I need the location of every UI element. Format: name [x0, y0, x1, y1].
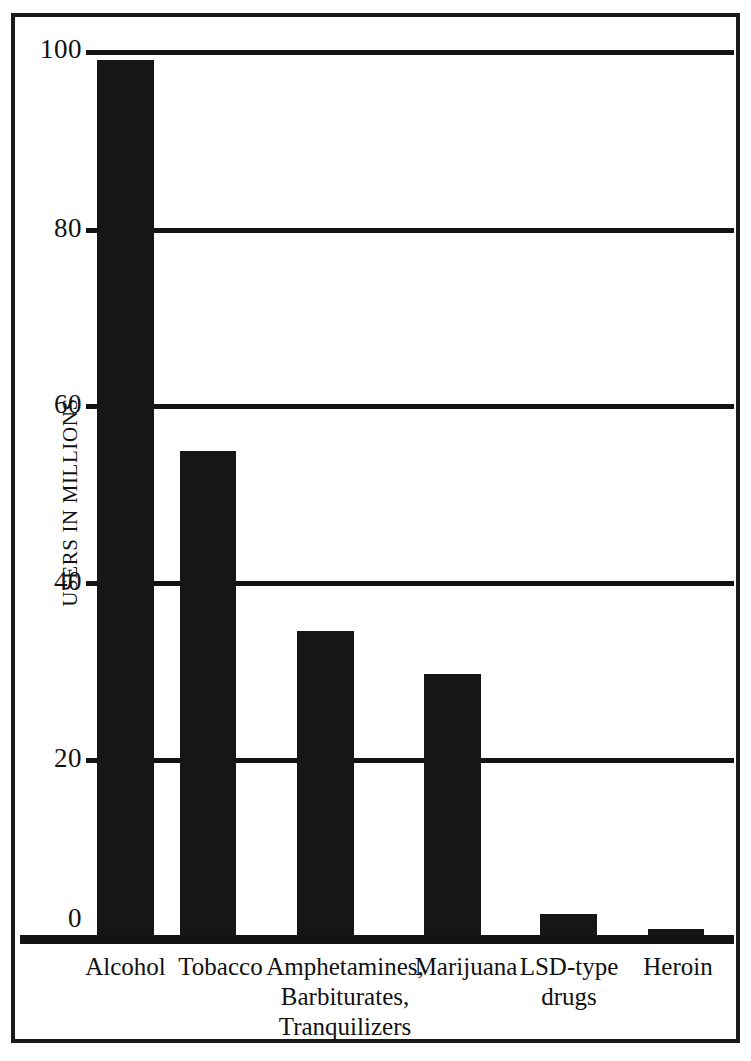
bar-marijuana	[424, 674, 481, 935]
xlabel-heroin-line-1: Heroin	[628, 952, 728, 982]
tick-100	[86, 50, 100, 55]
xlabel-lsd-line-2: drugs	[509, 982, 629, 1012]
xlabel-lsd-type-drugs: LSD-type drugs	[509, 952, 629, 1012]
xlabel-lsd-line-1: LSD-type	[509, 952, 629, 982]
ytick-label-100: 100	[0, 36, 82, 63]
xlabel-heroin: Heroin	[628, 952, 728, 982]
gridline-100	[91, 50, 734, 55]
ytick-label-0: 0	[0, 905, 82, 932]
gridline-80	[91, 228, 734, 233]
xlabel-amphetamines-line-2: Barbiturates,	[250, 982, 440, 1012]
chart-page: 100 80 60 40 20 0 USERS IN MILLIONS Alco…	[0, 0, 751, 1061]
plot-area: 100 80 60 40 20 0 USERS IN MILLIONS Alco…	[0, 0, 751, 1061]
bar-alcohol	[97, 60, 154, 935]
gridline-60	[91, 404, 734, 409]
y-axis-title: USERS IN MILLIONS	[58, 373, 83, 633]
bar-tobacco	[180, 451, 236, 935]
xlabel-alcohol-line-1: Alcohol	[73, 952, 178, 982]
bar-lsd-type-drugs	[540, 914, 597, 935]
ytick-label-80: 80	[0, 215, 82, 242]
xlabel-alcohol: Alcohol	[73, 952, 178, 982]
bar-amphetamines	[297, 631, 354, 935]
ytick-label-20: 20	[0, 745, 82, 772]
x-axis-baseline	[20, 935, 734, 944]
xlabel-amphetamines-line-3: Tranquilizers	[250, 1012, 440, 1042]
